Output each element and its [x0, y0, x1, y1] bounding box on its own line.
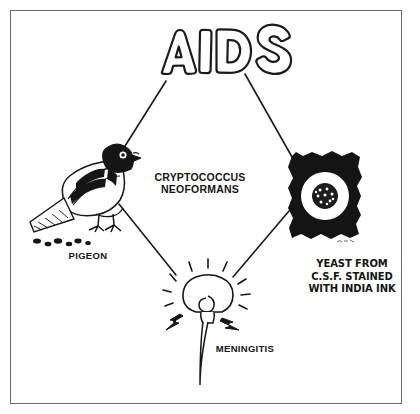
- center-label-cryptococcus-neoformans: CRYPTOCOCCUS NEOFORMANS: [130, 171, 270, 195]
- connector-aids-yeast: [245, 74, 292, 157]
- lightning-bolt-left: [166, 314, 183, 330]
- india-ink-slide-illustration: [288, 151, 362, 242]
- label-yeast-from-csf: YEAST FROM C.S.F. STAINED WITH INDIA INK: [296, 258, 408, 296]
- connector-pigeon-meningitis: [119, 204, 176, 275]
- label-meningitis: MENINGITIS: [190, 344, 300, 355]
- diagram-canvas: CRYPTOCOCCUS NEOFORMANS PIGEON MENINGITI…: [0, 0, 420, 414]
- artist-signature: [337, 240, 354, 242]
- brain-spinal-cord-illustration: [163, 259, 250, 385]
- label-pigeon: PIGEON: [38, 251, 138, 262]
- connector-yeast-meningitis: [233, 211, 289, 277]
- connector-aids-pigeon: [120, 81, 166, 154]
- lightning-bolt-right: [220, 318, 239, 330]
- aids-title-lettering: [162, 25, 291, 74]
- pigeon-illustration: [30, 144, 141, 246]
- pigeon-droppings: [33, 238, 91, 246]
